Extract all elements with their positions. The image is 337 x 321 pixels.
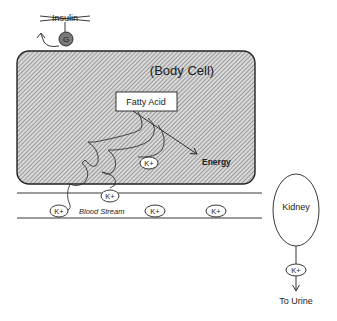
urine-label: To Urine bbox=[279, 296, 313, 306]
svg-text:K+: K+ bbox=[211, 207, 221, 216]
kidney-label: Kidney bbox=[282, 202, 310, 212]
cell-label: (Body Cell) bbox=[150, 63, 214, 78]
glucose-receptor: G bbox=[37, 32, 73, 47]
potassium-diagram: Insulin G (Body Cell) Fatty Acid Energy … bbox=[0, 0, 337, 321]
svg-text:K+: K+ bbox=[150, 207, 160, 216]
svg-text:K+: K+ bbox=[54, 207, 64, 216]
fatty-acid-label: Fatty Acid bbox=[126, 97, 166, 107]
insulin-crossed: Insulin bbox=[40, 13, 90, 32]
blood-stream-label: Blood Stream bbox=[79, 207, 124, 216]
svg-text:K+: K+ bbox=[105, 192, 115, 201]
svg-text:K+: K+ bbox=[291, 266, 301, 275]
energy-label: Energy bbox=[202, 157, 231, 167]
svg-text:K+: K+ bbox=[144, 159, 154, 168]
receptor-label: G bbox=[63, 35, 69, 44]
